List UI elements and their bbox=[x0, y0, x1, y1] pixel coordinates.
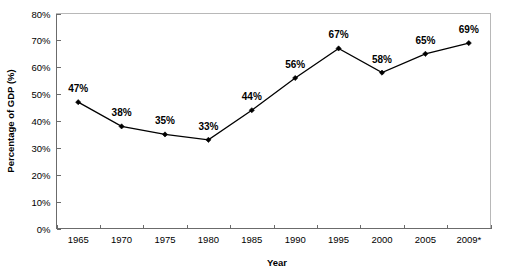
x-tick-label: 1985 bbox=[241, 234, 262, 245]
x-tick-label: 1990 bbox=[285, 234, 306, 245]
data-point-label: 44% bbox=[242, 91, 262, 102]
y-axis-tick-labels: 80%70%60%50%40%30%20%10%0% bbox=[31, 9, 51, 235]
y-tick-label: 80% bbox=[31, 9, 51, 20]
y-tick-label: 10% bbox=[31, 197, 51, 208]
data-point-label: 69% bbox=[459, 24, 479, 35]
y-axis-title: Percentage of GDP (%) bbox=[5, 69, 16, 172]
y-tick-label: 50% bbox=[31, 89, 51, 100]
data-point-label: 38% bbox=[112, 107, 132, 118]
line-chart: 80%70%60%50%40%30%20%10%0% 1965197019751… bbox=[0, 0, 507, 277]
y-tick-label: 70% bbox=[31, 35, 51, 46]
data-point-label: 35% bbox=[155, 115, 175, 126]
x-tick-label: 1965 bbox=[68, 234, 89, 245]
data-point-label: 56% bbox=[285, 59, 305, 70]
y-tick-label: 60% bbox=[31, 62, 51, 73]
x-tick-label: 2000 bbox=[371, 234, 392, 245]
data-point-label: 58% bbox=[372, 54, 392, 65]
data-point-label: 65% bbox=[415, 35, 435, 46]
x-tick-label: 1975 bbox=[154, 234, 175, 245]
y-tick-label: 30% bbox=[31, 143, 51, 154]
x-tick-label: 1980 bbox=[198, 234, 219, 245]
chart-container: 80%70%60%50%40%30%20%10%0% 1965197019751… bbox=[0, 0, 507, 277]
x-tick-label: 2005 bbox=[415, 234, 436, 245]
x-tick-label: 2009* bbox=[456, 234, 481, 245]
y-tick-label: 20% bbox=[31, 170, 51, 181]
y-tick-label: 0% bbox=[37, 224, 51, 235]
x-tick-label: 1970 bbox=[111, 234, 132, 245]
data-point-label: 33% bbox=[198, 121, 218, 132]
data-point-label: 67% bbox=[329, 29, 349, 40]
y-tick-label: 40% bbox=[31, 116, 51, 127]
x-tick-label: 1995 bbox=[328, 234, 349, 245]
data-point-label: 47% bbox=[68, 83, 88, 94]
x-axis-title: Year bbox=[267, 257, 287, 268]
